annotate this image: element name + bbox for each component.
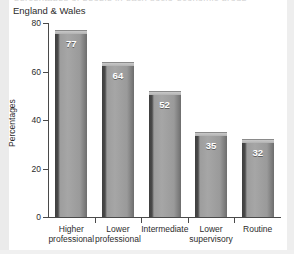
y-axis-title: Percentages [7, 80, 17, 166]
x-axis-category-label: Higherprofessional [48, 224, 95, 244]
bar-top-cap [242, 139, 274, 143]
bar: 52 [149, 91, 181, 217]
y-axis-tick: 80 [43, 23, 48, 24]
y-axis-tick-label: 60 [32, 67, 41, 77]
clipped-title-text: percentages of people in each socio-econ… [14, 0, 276, 1]
x-axis-tick [95, 218, 96, 223]
x-axis-line [48, 217, 281, 218]
y-axis-tick: 40 [43, 120, 48, 121]
bar-value-label: 77 [55, 38, 87, 49]
x-axis-tick [234, 218, 235, 223]
bar-body [102, 62, 134, 217]
x-axis-category-line: professional [95, 234, 142, 244]
y-axis-tick-label: 20 [32, 164, 41, 174]
bar-value-label: 35 [195, 140, 227, 151]
y-axis-tick-label: 0 [36, 212, 41, 222]
y-axis-tick-label: 80 [32, 18, 41, 28]
chart-subtitle: England & Wales [13, 5, 86, 16]
x-axis-tick [188, 218, 189, 223]
y-axis-tick: 60 [43, 72, 48, 73]
y-axis-tick: 0 [43, 217, 48, 218]
bar-top-cap [195, 132, 227, 136]
bar-value-label: 52 [149, 99, 181, 110]
x-axis-category-label: Lowerprofessional [95, 224, 142, 244]
bar: 35 [195, 132, 227, 217]
x-axis-category-line: Lower [188, 224, 235, 234]
bar-value-label: 32 [242, 147, 274, 158]
x-axis-category-line: Intermediate [141, 224, 188, 234]
bar-top-cap [149, 91, 181, 95]
x-axis-category-label: Routine [234, 224, 281, 234]
x-axis-category-label: Lowersupervisory [188, 224, 235, 244]
bar-top-cap [102, 62, 134, 66]
chart-screenshot: percentages of people in each socio-econ… [0, 0, 294, 254]
bar-body [55, 30, 87, 217]
x-axis-category-line: professional [48, 234, 95, 244]
page-edge-bottom [0, 250, 294, 254]
x-axis-category-line: Lower [95, 224, 142, 234]
bar-top-cap [55, 30, 87, 34]
x-axis-category-label: Intermediate [141, 224, 188, 234]
bar: 64 [102, 62, 134, 217]
x-axis-category-line: Routine [234, 224, 281, 234]
y-axis-tick: 20 [43, 169, 48, 170]
y-axis-tick-label: 40 [32, 115, 41, 125]
x-axis-category-line: supervisory [188, 234, 235, 244]
x-axis-tick [141, 218, 142, 223]
bar: 32 [242, 139, 274, 217]
page-edge-right [287, 0, 294, 254]
x-axis-category-line: Higher [48, 224, 95, 234]
bar-value-label: 64 [102, 70, 134, 81]
bar: 77 [55, 30, 87, 217]
y-axis-line [48, 23, 49, 218]
